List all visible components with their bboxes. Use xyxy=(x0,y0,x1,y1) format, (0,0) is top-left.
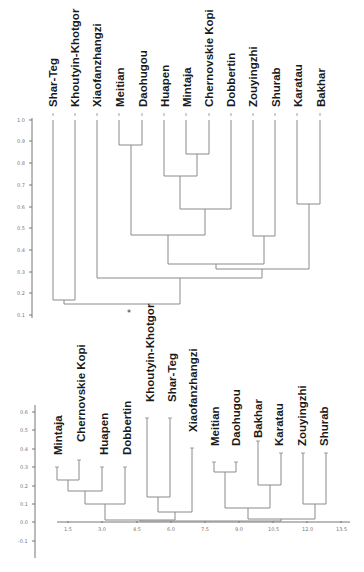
top-y-tick-labels: 1.0 0.9 0.8 0.7 0.6 0.5 0.4 0.3 0.2 0.1 xyxy=(17,117,25,318)
bottom-y-tick-label: 0.5 xyxy=(20,427,28,433)
bottom-x-tick-label: 1.5 xyxy=(64,526,72,532)
bottom-x-tick-label: 9.0 xyxy=(235,526,243,532)
bottom-leaf-label: Chernovskie Kopi xyxy=(75,344,87,442)
bottom-leaf-label: Shurab xyxy=(318,406,330,446)
top-y-tick-label: 0.4 xyxy=(17,247,25,253)
top-y-tick-label: 1.0 xyxy=(17,117,25,123)
top-y-tick-label: 0.3 xyxy=(17,269,25,275)
bottom-x-tick-labels: 1.5 3.0 4.5 6.0 7.5 9.0 10.5 12.0 13.5 xyxy=(64,526,347,532)
top-tree-branches xyxy=(53,120,320,304)
top-y-tick-label: 0.6 xyxy=(17,204,25,210)
top-leaf-label: Meitian xyxy=(114,67,126,107)
top-leaf-label: Huapen xyxy=(159,65,171,107)
top-dendrogram: 1.0 0.9 0.8 0.7 0.6 0.5 0.4 0.3 0.2 0.1 … xyxy=(17,8,327,318)
bottom-y-tick-label: 0.1 xyxy=(20,501,28,507)
top-leaf-label: Chernovskie Kopi xyxy=(203,9,215,107)
figure-svg: 1.0 0.9 0.8 0.7 0.6 0.5 0.4 0.3 0.2 0.1 … xyxy=(0,0,364,572)
bottom-x-tick-label: 7.5 xyxy=(201,526,209,532)
top-y-tick-label: 0.2 xyxy=(17,290,25,296)
top-leaf-label: Daohugou xyxy=(137,50,149,107)
top-y-tick-label: 0.9 xyxy=(17,138,25,144)
bottom-y-tick-label: 0.6 xyxy=(20,409,28,415)
bottom-x-tick-label: 4.5 xyxy=(133,526,141,532)
top-leaf-markers xyxy=(53,113,320,116)
bottom-y-tick-label: -0.1 xyxy=(18,538,28,544)
top-leaf-label: Zouyingzhi xyxy=(247,46,259,107)
top-y-tick-label: 0.5 xyxy=(17,225,25,231)
bottom-y-tick-label: 0.4 xyxy=(20,446,28,452)
bottom-leaf-label: Shar-Teg xyxy=(166,353,178,402)
bottom-y-tick-label: 0.3 xyxy=(20,464,28,470)
top-y-tick-label: 0.8 xyxy=(17,160,25,166)
bottom-y-tick-label: 0.0 xyxy=(20,519,28,525)
bottom-x-tick-label: 10.5 xyxy=(268,526,279,532)
top-leaf-label: Bakhar xyxy=(315,67,327,107)
top-leaf-label: Dobbertin xyxy=(225,53,237,107)
bottom-leaf-label: Huapen xyxy=(98,413,110,455)
top-leaf-label: Karatau xyxy=(292,64,304,107)
bottom-leaf-label: Dobbertin xyxy=(121,401,133,455)
asterisk-annotation: * xyxy=(127,309,131,318)
bottom-leaf-label: Daohugou xyxy=(230,389,242,446)
top-leaf-label: Mintaja xyxy=(181,67,193,107)
bottom-y-tick-labels: 0.6 0.5 0.4 0.3 0.2 0.1 0.0 -0.1 xyxy=(18,409,28,544)
bottom-leaf-label: Karatau xyxy=(273,403,285,446)
top-y-tick-label: 0.7 xyxy=(17,182,25,188)
bottom-leaf-label: Mintaja xyxy=(52,415,64,455)
bottom-x-tick-label: 13.5 xyxy=(336,526,347,532)
top-leaf-label: Shar-Teg xyxy=(47,58,59,107)
top-y-tick-label: 0.1 xyxy=(17,312,25,318)
bottom-leaf-label: Khoutyin-Khotgor xyxy=(144,303,156,402)
bottom-leaf-labels: Mintaja Chernovskie Kopi Huapen Dobberti… xyxy=(52,303,330,455)
bottom-y-tick-label: 0.2 xyxy=(20,483,28,489)
bottom-leaf-label: Zouyingzhi xyxy=(296,385,308,446)
bottom-x-tick-label: 3.0 xyxy=(98,526,106,532)
bottom-leaf-label: Meitian xyxy=(209,406,221,446)
top-leaf-label: Khoutyin-Khotgor xyxy=(69,8,81,107)
bottom-leaf-label: Xiaofanzhangzi xyxy=(187,348,199,432)
top-leaf-label: Xiaofanzhangzi xyxy=(91,23,103,107)
dendrogram-figure: 1.0 0.9 0.8 0.7 0.6 0.5 0.4 0.3 0.2 0.1 … xyxy=(0,0,364,572)
bottom-dendrogram: 0.6 0.5 0.4 0.3 0.2 0.1 0.0 -0.1 1.5 3.0… xyxy=(18,303,350,558)
bottom-x-tick-label: 6.0 xyxy=(167,526,175,532)
bottom-leaf-label: Bakhar xyxy=(252,398,264,438)
bottom-x-tick-label: 12.0 xyxy=(302,526,313,532)
top-leaf-labels: Shar-Teg Khoutyin-Khotgor Xiaofanzhangzi… xyxy=(47,8,327,107)
top-leaf-label: Shurab xyxy=(270,67,282,107)
